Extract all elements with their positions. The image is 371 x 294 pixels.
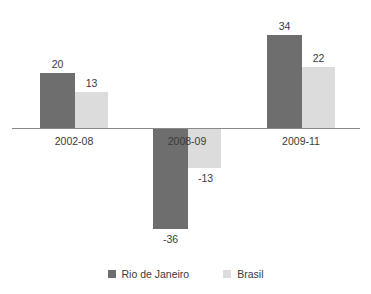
legend-swatch-icon-rio-de-janeiro xyxy=(108,270,116,278)
legend-item-rio-de-janeiro: Rio de Janeiro xyxy=(108,268,190,280)
value-label-rio-de-janeiro-2008-09: -36 xyxy=(153,233,188,245)
bar-brasil-2002-08 xyxy=(75,92,108,128)
value-label-brasil-2009-11: 22 xyxy=(302,52,335,64)
bar-brasil-2009-11 xyxy=(302,67,335,128)
bar-rio-de-janeiro-2002-08 xyxy=(40,73,75,128)
category-label-2008-09: 2008-09 xyxy=(141,135,233,147)
legend-label-rio-de-janeiro: Rio de Janeiro xyxy=(122,268,190,280)
value-label-brasil-2002-08: 13 xyxy=(75,77,108,89)
plot-area: 20 13 2002-08 -36 -13 2008-09 34 22 2009… xyxy=(0,0,371,258)
chart-legend: Rio de Janeiro Brasil xyxy=(0,264,371,284)
category-label-2009-11: 2009-11 xyxy=(255,135,347,147)
value-label-brasil-2008-09: -13 xyxy=(189,172,222,184)
category-label-2002-08: 2002-08 xyxy=(28,135,120,147)
bar-rio-de-janeiro-2009-11 xyxy=(267,35,302,128)
legend-item-brasil: Brasil xyxy=(223,268,263,280)
bar-chart: 20 13 2002-08 -36 -13 2008-09 34 22 2009… xyxy=(0,0,371,294)
value-label-rio-de-janeiro-2009-11: 34 xyxy=(267,20,302,32)
legend-swatch-icon-brasil xyxy=(223,270,231,278)
value-label-rio-de-janeiro-2002-08: 20 xyxy=(40,58,75,70)
legend-label-brasil: Brasil xyxy=(237,268,263,280)
